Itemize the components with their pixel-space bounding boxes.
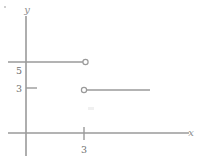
y-tick-label-3: 3 <box>16 83 22 94</box>
lower-branch-open-circle <box>81 87 86 92</box>
y-tick-label-5: 5 <box>16 65 22 76</box>
x-tick-label-3: 3 <box>81 144 87 155</box>
upper-branch-open-circle <box>83 59 88 64</box>
plot-canvas: y x 5 3 3 <box>0 0 197 162</box>
x-axis-label: x <box>188 127 194 138</box>
y-axis-label: y <box>23 4 30 15</box>
graph-figure: y x 5 3 3 <box>0 0 197 162</box>
